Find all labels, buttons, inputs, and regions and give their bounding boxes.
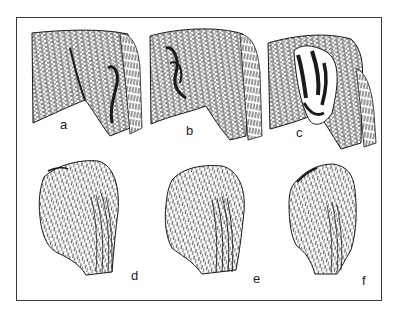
panel-a-illustration xyxy=(30,28,145,138)
panel-b-label: b xyxy=(186,124,193,137)
panel-f-illustration xyxy=(285,160,365,278)
panel-d-label: d xyxy=(131,269,138,282)
panel-c-label: c xyxy=(296,126,303,139)
panel-d-illustration xyxy=(36,157,126,277)
panel-e-illustration xyxy=(162,160,252,278)
panel-a-label: a xyxy=(60,118,67,131)
panel-c-illustration xyxy=(266,33,378,151)
panel-e-label: e xyxy=(253,272,260,285)
panel-f-label: f xyxy=(362,274,366,287)
panel-b-illustration xyxy=(148,28,268,143)
